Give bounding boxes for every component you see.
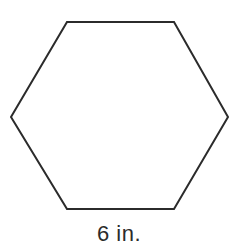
side-length-label: 6 in. [97, 221, 141, 246]
figure-canvas: 6 in. [0, 0, 238, 250]
hexagon-figure: 6 in. [0, 0, 238, 250]
